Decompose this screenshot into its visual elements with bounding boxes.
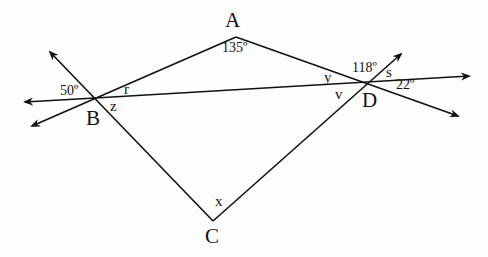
angle-d-right-label: 22º xyxy=(396,78,414,92)
line-bd xyxy=(25,98,95,102)
variable-r: r xyxy=(124,82,129,97)
point-label-b: B xyxy=(86,108,100,129)
variable-v: v xyxy=(335,87,343,102)
line-cb xyxy=(50,52,213,221)
line-ab xyxy=(32,37,236,126)
variable-z: z xyxy=(110,99,117,114)
geometry-diagram: A B C D 135º 50º 118º 22º r z y v s x xyxy=(0,0,488,257)
point-label-c: C xyxy=(205,226,219,247)
variable-x: x xyxy=(215,194,223,209)
point-label-a: A xyxy=(225,10,240,31)
variable-s: s xyxy=(386,65,392,80)
line-ad xyxy=(236,37,458,116)
angle-d-upper-label: 118º xyxy=(352,61,377,75)
line-cd xyxy=(213,54,401,221)
angle-a-label: 135º xyxy=(222,41,247,55)
angle-b-outer-label: 50º xyxy=(60,84,78,98)
diagram-lines xyxy=(0,0,488,257)
variable-y: y xyxy=(324,70,332,85)
point-label-d: D xyxy=(362,90,377,111)
